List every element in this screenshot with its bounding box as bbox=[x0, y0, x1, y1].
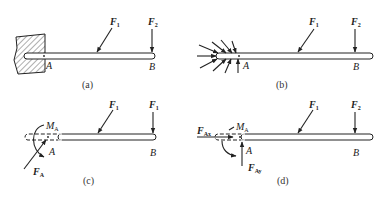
panel-b: F1 F2 A B (b) bbox=[197, 16, 373, 91]
label-point-a: A bbox=[45, 60, 53, 71]
label-f1: F1 bbox=[308, 16, 319, 28]
label-f1: F1 bbox=[108, 99, 119, 111]
label-f2: F1 bbox=[148, 99, 159, 111]
label-point-a: A bbox=[242, 60, 250, 71]
caption-b: (b) bbox=[276, 79, 288, 91]
caption-a: (a) bbox=[82, 79, 93, 91]
label-point-a: A bbox=[245, 145, 253, 156]
label-point-b: B bbox=[149, 61, 155, 72]
panel-a: F1 F2 A B (a) bbox=[14, 16, 158, 91]
beam-dashed-segment bbox=[25, 134, 60, 140]
label-f2: F2 bbox=[350, 99, 361, 111]
caption-c: (c) bbox=[83, 175, 94, 187]
moment-ma-arc bbox=[222, 141, 236, 156]
panel-d: F1 F2 FAx MA A B FAy (d) bbox=[196, 99, 373, 187]
beam bbox=[58, 134, 156, 140]
label-point-b: B bbox=[150, 147, 156, 158]
label-f1: F1 bbox=[308, 99, 319, 111]
label-point-a: A bbox=[48, 146, 56, 157]
caption-d: (d) bbox=[277, 175, 289, 187]
panel-c: F1 F1 MA A B FA (c) bbox=[24, 99, 159, 187]
label-f1: F1 bbox=[109, 16, 120, 28]
label-f2: F2 bbox=[147, 16, 158, 28]
force-f1-arrow bbox=[98, 110, 113, 133]
reaction-fa-arrow bbox=[24, 140, 46, 169]
moment-ma-arc bbox=[34, 125, 45, 157]
beam bbox=[241, 134, 373, 140]
label-reaction-fa: FA bbox=[32, 166, 45, 178]
label-point-b: B bbox=[353, 147, 359, 158]
point-a-dot bbox=[239, 136, 241, 138]
point-a-dot bbox=[43, 55, 45, 57]
label-f2: F2 bbox=[350, 16, 361, 28]
label-moment-ma: MA bbox=[235, 121, 249, 133]
force-f1-arrow bbox=[97, 28, 112, 52]
label-reaction-fax: FAx bbox=[196, 125, 211, 137]
force-f1-arrow bbox=[298, 29, 314, 52]
point-a-dot bbox=[47, 136, 49, 138]
force-f1-arrow bbox=[298, 110, 313, 133]
label-point-b: B bbox=[353, 61, 359, 72]
moment-ma-tick bbox=[229, 127, 234, 130]
label-moment-ma: MA bbox=[45, 120, 59, 132]
cantilever-figure: F1 F2 A B (a) F1 F2 A B (b) bbox=[0, 0, 375, 200]
label-reaction-fay: FAy bbox=[247, 162, 262, 174]
point-a-dot bbox=[238, 55, 240, 57]
